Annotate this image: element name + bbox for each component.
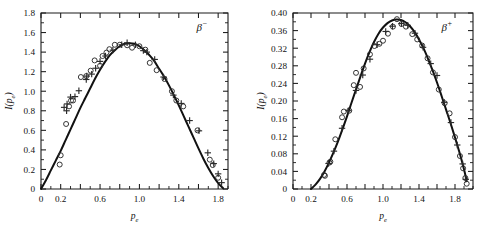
y-tick-label: 0.8 bbox=[24, 106, 36, 116]
data-point-circle bbox=[112, 42, 117, 47]
figure-container: 00.20.40.60.81.01.21.41.61.800.20.61.01.… bbox=[0, 0, 484, 228]
data-point-circle bbox=[78, 75, 83, 80]
x-axis-title-sub: e bbox=[135, 216, 138, 223]
x-tick-label: 0.2 bbox=[55, 194, 67, 204]
panel-annotation-superscript: − bbox=[202, 19, 207, 28]
theory-curve bbox=[41, 43, 223, 189]
y-axis-ticks: 00.20.40.60.81.01.21.41.61.8 bbox=[24, 8, 228, 194]
data-point-circle bbox=[358, 84, 363, 89]
data-point-circle bbox=[154, 68, 159, 73]
y-tick-label: 0.04 bbox=[271, 167, 287, 177]
y-tick-label: 0.24 bbox=[271, 79, 287, 89]
series-cross-data bbox=[325, 20, 469, 182]
y-tick-label: 1.6 bbox=[24, 28, 36, 38]
series-circle-data bbox=[322, 17, 470, 187]
y-tick-label: 1.0 bbox=[24, 87, 36, 97]
data-point-circle bbox=[354, 70, 359, 75]
y-tick-label: 0.2 bbox=[24, 165, 36, 175]
y-axis-title-part3: ) bbox=[255, 92, 267, 96]
y-tick-label: 1.4 bbox=[24, 47, 36, 57]
plot-area: 00.20.40.60.81.01.21.41.61.800.20.61.01.… bbox=[3, 8, 228, 222]
panel-beta-plus: 00.040.080.120.160.200.240.280.320.360.4… bbox=[242, 0, 484, 228]
x-tick-label: 0.6 bbox=[341, 194, 353, 204]
y-tick-label: 0.4 bbox=[24, 145, 36, 155]
data-point-circle bbox=[381, 38, 386, 43]
plot-area: 00.040.080.120.160.200.240.280.320.360.4… bbox=[255, 8, 473, 222]
y-axis-title-part3: ) bbox=[3, 92, 15, 96]
x-tick-label: 1.0 bbox=[134, 194, 146, 204]
x-tick-label: 1.0 bbox=[377, 194, 389, 204]
data-point-circle bbox=[351, 83, 356, 88]
data-point-circle bbox=[333, 137, 338, 142]
x-tick-label: 1.4 bbox=[413, 194, 425, 204]
y-tick-label: 1.8 bbox=[24, 8, 36, 18]
y-tick-label: 0.32 bbox=[271, 44, 287, 54]
y-tick-label: 0.16 bbox=[271, 114, 287, 124]
x-axis-title-sub: e bbox=[384, 216, 387, 223]
data-point-circle bbox=[341, 109, 346, 114]
y-tick-label: 0 bbox=[30, 184, 35, 194]
data-point-circle bbox=[340, 115, 345, 120]
y-tick-label: 1.2 bbox=[24, 67, 36, 77]
y-axis-title: I(pe) bbox=[255, 92, 268, 110]
y-tick-label: 0.40 bbox=[271, 8, 287, 18]
y-axis-title: I(pe) bbox=[3, 92, 16, 110]
chart-beta-plus: 00.040.080.120.160.200.240.280.320.360.4… bbox=[242, 0, 484, 228]
y-tick-label: 0.20 bbox=[271, 96, 287, 106]
x-axis-title: pe bbox=[378, 210, 387, 223]
chart-beta-minus: 00.20.40.60.81.01.21.41.61.800.20.61.01.… bbox=[0, 0, 242, 228]
y-tick-label: 0.28 bbox=[271, 61, 287, 71]
y-tick-label: 0 bbox=[282, 184, 287, 194]
x-tick-label: 0 bbox=[291, 194, 296, 204]
data-point-circle bbox=[88, 68, 93, 73]
theory-curve bbox=[311, 20, 467, 189]
data-point-circle bbox=[57, 162, 62, 167]
y-tick-label: 0.36 bbox=[271, 26, 287, 36]
data-point-circle bbox=[207, 157, 212, 162]
data-point-circle bbox=[410, 32, 415, 37]
data-point-circle bbox=[107, 47, 112, 52]
data-point-circle bbox=[92, 58, 97, 63]
panel-beta-minus: 00.20.40.60.81.01.21.41.61.800.20.61.01.… bbox=[0, 0, 242, 228]
y-tick-label: 0.6 bbox=[24, 126, 36, 136]
x-axis-title: pe bbox=[130, 210, 139, 223]
data-point-circle bbox=[130, 45, 135, 50]
series-circle-data bbox=[57, 42, 220, 180]
x-tick-label: 0 bbox=[39, 194, 44, 204]
x-tick-label: 1.8 bbox=[212, 194, 224, 204]
x-tick-label: 1.4 bbox=[173, 194, 185, 204]
y-tick-label: 0.08 bbox=[271, 149, 287, 159]
x-tick-label: 0.2 bbox=[305, 194, 317, 204]
panel-annotation-superscript: + bbox=[447, 19, 452, 28]
panel-annotation: β− bbox=[196, 19, 208, 33]
x-tick-label: 1.8 bbox=[449, 194, 461, 204]
x-tick-label: 0.6 bbox=[94, 194, 106, 204]
y-tick-label: 0.12 bbox=[271, 132, 287, 142]
panel-annotation: β+ bbox=[441, 19, 453, 33]
series-cross-data bbox=[61, 40, 225, 186]
data-point-circle bbox=[64, 121, 69, 126]
data-point-circle bbox=[147, 60, 152, 65]
